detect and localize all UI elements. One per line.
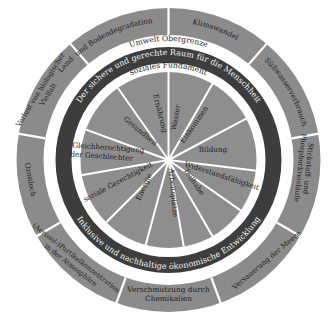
- inner-label-bildung: Bildung: [199, 145, 228, 154]
- outer-label-chemikalien-line1: Verschmutzung durch: [126, 285, 210, 294]
- center-dot: [166, 157, 172, 163]
- doughnut-diagram: Land- und Bodendegradation Klimawandel S…: [0, 0, 331, 328]
- outer-label-chemikalien-line2: Chemikalien: [145, 294, 192, 303]
